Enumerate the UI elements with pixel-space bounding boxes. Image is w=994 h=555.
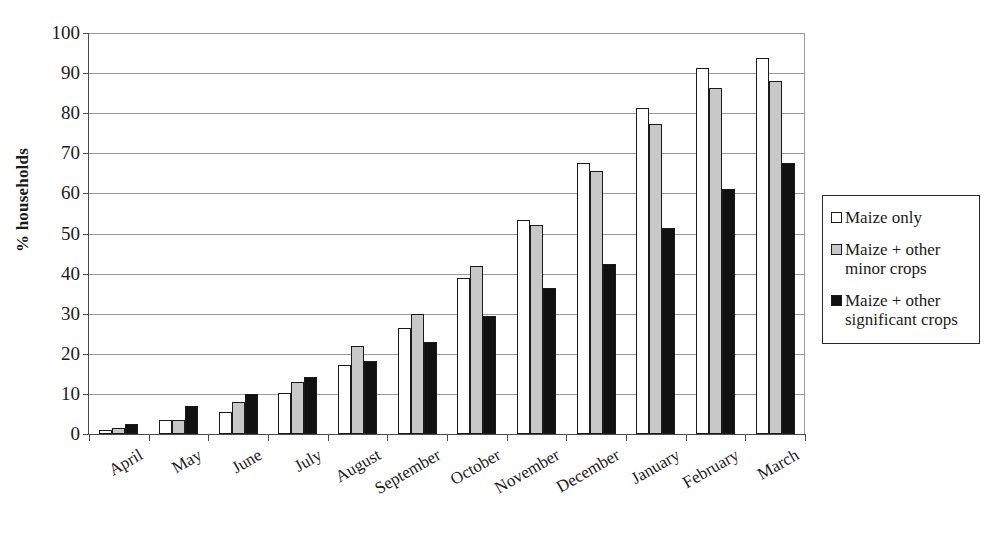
x-tick-mark [566, 434, 567, 441]
chart-legend: Maize onlyMaize + other minor cropsMaize… [822, 195, 980, 344]
bar-group [149, 33, 209, 434]
x-tick-mark [447, 434, 448, 441]
y-tick-label: 0 [71, 424, 81, 443]
legend-item: Maize + other significant crops [831, 291, 972, 329]
bar-group [507, 33, 567, 434]
bar [603, 264, 616, 434]
bar [411, 314, 424, 434]
y-tick-label: 70 [61, 143, 80, 162]
x-tick-mark [745, 434, 746, 441]
bar-group [566, 33, 626, 434]
bar [517, 220, 530, 434]
legend-item: Maize + other minor crops [831, 240, 972, 278]
x-tick-mark [387, 434, 388, 441]
bar-group [328, 33, 388, 434]
x-tick-mark [626, 434, 627, 441]
bar [112, 428, 125, 434]
bars-layer [89, 33, 805, 434]
bar [219, 412, 232, 434]
bar [364, 361, 377, 434]
x-tick-mark [805, 434, 806, 441]
legend-label: Maize + other significant crops [845, 291, 972, 329]
bar [662, 228, 675, 434]
y-tick-label: 80 [61, 103, 80, 122]
bar-group [447, 33, 507, 434]
x-tick-mark [208, 434, 209, 441]
bar [304, 377, 317, 434]
y-tick-label: 50 [61, 224, 80, 243]
bar [351, 346, 364, 434]
bar-group [686, 33, 746, 434]
bar [457, 278, 470, 434]
bar [483, 316, 496, 434]
bar [722, 189, 735, 434]
x-tick-mark [507, 434, 508, 441]
bar-group [745, 33, 805, 434]
bar [470, 266, 483, 434]
bar [185, 406, 198, 434]
legend-swatch-icon [831, 212, 842, 223]
legend-label: Maize only [845, 208, 972, 227]
bar-group [208, 33, 268, 434]
bar [577, 163, 590, 434]
legend-label: Maize + other minor crops [845, 240, 972, 278]
bar [782, 163, 795, 434]
y-tick-label: 100 [52, 23, 81, 42]
bar [172, 420, 185, 434]
plot-area: 0102030405060708090100 AprilMayJuneJulyA… [88, 33, 805, 435]
bar [125, 424, 138, 434]
bar [530, 225, 543, 434]
x-tick-mark [268, 434, 269, 441]
y-tick-label: 30 [61, 304, 80, 323]
bar [709, 88, 722, 434]
y-tick-label: 60 [61, 184, 80, 203]
bar [278, 393, 291, 434]
x-tick-mark [149, 434, 150, 441]
y-axis-title: % households [13, 130, 33, 270]
x-tick-mark [89, 434, 90, 441]
bar [649, 124, 662, 434]
bar [590, 171, 603, 434]
bar-group [387, 33, 447, 434]
bar [398, 328, 411, 434]
legend-swatch-icon [831, 244, 842, 255]
bar [769, 81, 782, 434]
bar [338, 365, 351, 434]
bar [159, 420, 172, 434]
bar [99, 430, 112, 434]
bar [424, 342, 437, 434]
bar-group [89, 33, 149, 434]
legend-item: Maize only [831, 208, 972, 227]
y-tick-label: 10 [61, 384, 80, 403]
bar [756, 58, 769, 434]
legend-swatch-icon [831, 295, 842, 306]
x-tick-mark [686, 434, 687, 441]
y-tick-label: 90 [61, 63, 80, 82]
grouped-bar-chart: % households 0102030405060708090100 Apri… [0, 0, 994, 555]
bar [696, 68, 709, 434]
y-tick-label: 20 [61, 344, 80, 363]
bar [543, 288, 556, 434]
bar [636, 108, 649, 434]
y-tick-label: 40 [61, 264, 80, 283]
bar [232, 402, 245, 434]
bar [245, 394, 258, 434]
bar-group [626, 33, 686, 434]
bar [291, 382, 304, 434]
bar-group [268, 33, 328, 434]
x-tick-mark [328, 434, 329, 441]
